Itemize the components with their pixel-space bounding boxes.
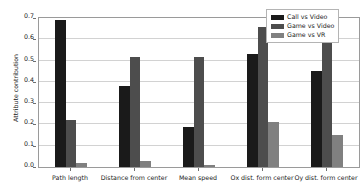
x-axis-ticks: Path lengthDistance from centerMean spee… bbox=[38, 168, 360, 192]
y-tick-mark bbox=[33, 39, 36, 40]
legend-item: Game vs Video bbox=[271, 22, 334, 30]
x-tick-label: Ox dist. form center bbox=[230, 174, 293, 181]
legend-item: Game vs VR bbox=[271, 31, 334, 39]
y-tick-label: 0.1 bbox=[4, 140, 34, 147]
y-tick-label: 0.4 bbox=[4, 76, 34, 83]
bar bbox=[76, 163, 87, 167]
x-tick-mark bbox=[134, 168, 135, 171]
y-tick-label: 0.2 bbox=[4, 118, 34, 125]
legend-swatch-icon bbox=[271, 24, 284, 29]
legend-label: Game vs Video bbox=[287, 22, 334, 30]
bar bbox=[332, 135, 343, 167]
y-tick-mark bbox=[33, 167, 36, 168]
y-tick-label: 0.3 bbox=[4, 97, 34, 104]
y-tick-label: 0.6 bbox=[4, 33, 34, 40]
bar bbox=[204, 165, 215, 167]
y-axis-ticks: 0.00.10.20.30.40.50.60.7 bbox=[0, 17, 34, 168]
x-tick-mark bbox=[70, 168, 71, 171]
x-tick-mark bbox=[198, 168, 199, 171]
y-tick-label: 0.0 bbox=[4, 161, 34, 168]
y-tick-mark bbox=[33, 18, 36, 19]
y-tick-mark bbox=[33, 146, 36, 147]
legend-swatch-icon bbox=[271, 33, 284, 38]
bar bbox=[311, 71, 322, 167]
x-tick-label: Distance from center bbox=[101, 174, 167, 181]
bar bbox=[258, 27, 269, 167]
bar bbox=[268, 122, 279, 167]
bar bbox=[130, 57, 141, 167]
legend-label: Game vs VR bbox=[287, 31, 325, 39]
x-tick-mark bbox=[262, 168, 263, 171]
legend-swatch-icon bbox=[271, 15, 284, 20]
legend-label: Call vs Video bbox=[287, 13, 327, 21]
bar bbox=[66, 120, 77, 167]
bar-chart: Attribute contribution 0.00.10.20.30.40.… bbox=[0, 0, 364, 193]
bar bbox=[55, 20, 66, 167]
bar bbox=[183, 127, 194, 167]
x-tick-mark bbox=[326, 168, 327, 171]
bar bbox=[119, 86, 130, 167]
bar bbox=[247, 54, 258, 167]
y-tick-label: 0.7 bbox=[4, 12, 34, 19]
y-tick-mark bbox=[33, 82, 36, 83]
legend-item: Call vs Video bbox=[271, 13, 334, 21]
bar bbox=[194, 57, 205, 167]
y-tick-label: 0.5 bbox=[4, 55, 34, 62]
y-tick-mark bbox=[33, 61, 36, 62]
legend: Call vs VideoGame vs VideoGame vs VR bbox=[266, 9, 339, 43]
y-tick-mark bbox=[33, 103, 36, 104]
x-tick-label: Oy dist. form center bbox=[294, 174, 357, 181]
x-tick-label: Path length bbox=[52, 174, 88, 181]
bar bbox=[140, 161, 151, 167]
bar bbox=[322, 39, 333, 167]
y-tick-mark bbox=[33, 124, 36, 125]
x-tick-label: Mean speed bbox=[179, 174, 217, 181]
